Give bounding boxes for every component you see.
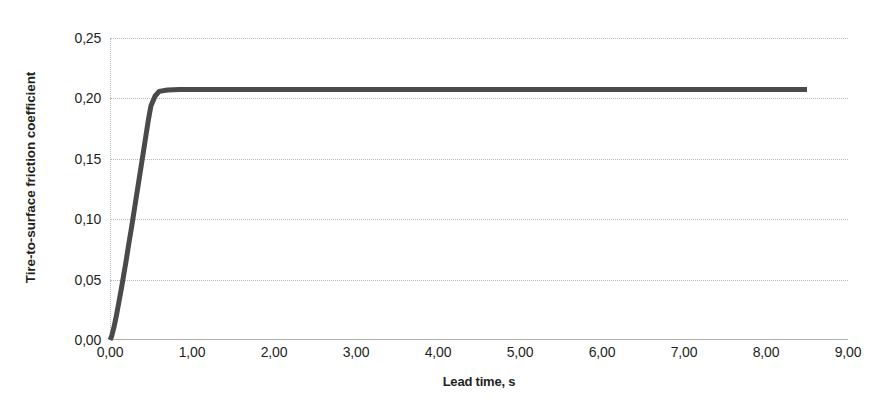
x-axis-tick-labels: 0,001,002,003,004,005,006,007,008,009,00: [110, 344, 848, 366]
x-tick-label: 5,00: [490, 344, 550, 360]
x-tick-label: 4,00: [408, 344, 468, 360]
plot-area: [110, 38, 848, 340]
x-tick-label: 8,00: [736, 344, 796, 360]
x-tick-label: 2,00: [244, 344, 304, 360]
x-axis-title-label: Lead time, s: [110, 374, 848, 389]
y-tick-label: 0,15: [46, 151, 101, 167]
x-tick-label: 0,00: [80, 344, 140, 360]
y-axis-tick-labels: 0,000,050,100,150,200,25: [46, 38, 101, 340]
x-tick-label: 7,00: [654, 344, 714, 360]
y-axis-title-label: Tire-to-surface friction coefficient: [24, 72, 39, 283]
x-tick-label: 3,00: [326, 344, 386, 360]
x-tick-label: 9,00: [818, 344, 878, 360]
series-line-friction: [110, 38, 848, 340]
y-tick-label: 0,25: [46, 30, 101, 46]
y-tick-label: 0,10: [46, 211, 101, 227]
x-tick-label: 1,00: [162, 344, 222, 360]
chart-figure: Tire-to-surface friction coefficient 0,0…: [0, 0, 892, 413]
y-axis-title: Tire-to-surface friction coefficient: [17, 0, 45, 355]
y-tick-label: 0,20: [46, 90, 101, 106]
y-tick-label: 0,05: [46, 272, 101, 288]
x-tick-label: 6,00: [572, 344, 632, 360]
